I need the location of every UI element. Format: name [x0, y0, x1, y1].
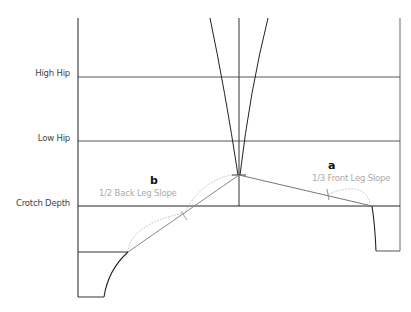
back-slope-label: 1/2 Back Leg Slope — [99, 188, 177, 198]
front-slope-tick — [327, 189, 329, 200]
back-slope-letter: b — [150, 174, 158, 187]
front-slope-letter: a — [328, 159, 335, 172]
back-leg-slope-line — [128, 175, 239, 252]
front-dotted-arc — [328, 189, 370, 204]
high-hip-label: High Hip — [0, 68, 70, 78]
back-crotch-curve — [104, 252, 128, 297]
right-dart-curve — [240, 18, 268, 175]
crotch-depth-label: Crotch Depth — [0, 198, 70, 208]
left-dart-curve — [210, 18, 238, 175]
front-slope-label: 1/3 Front Leg Slope — [312, 173, 390, 183]
pattern-diagram — [0, 0, 411, 312]
front-crotch-curve — [372, 206, 376, 251]
low-hip-label: Low Hip — [0, 133, 70, 143]
back-slope-tick — [181, 211, 187, 220]
